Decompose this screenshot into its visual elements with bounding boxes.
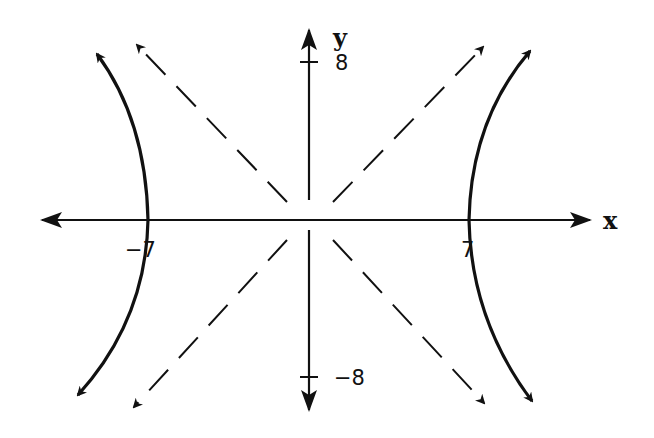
x-tick-label-neg7: −7	[125, 238, 156, 262]
y-axis-label: y	[332, 23, 348, 52]
hyperbola-diagram: y x 8 −8 −7 7	[0, 0, 654, 438]
hyperbola-right-branch	[469, 51, 532, 401]
x-axis-label: x	[603, 206, 618, 235]
hyperbola-left-branch	[78, 54, 148, 395]
y-tick-label-neg8: −8	[334, 366, 365, 390]
x-tick-label-7: 7	[461, 238, 474, 262]
y-tick-label-8: 8	[335, 51, 348, 75]
